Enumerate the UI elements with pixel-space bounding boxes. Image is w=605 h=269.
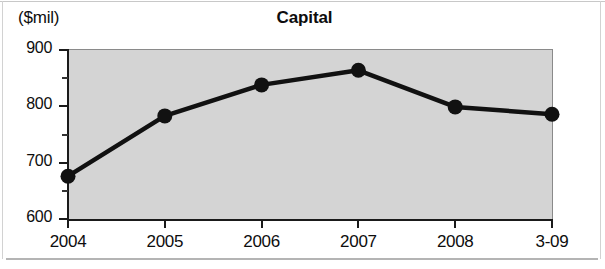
x-axis-line: [67, 219, 553, 221]
y-tick-major: [59, 49, 68, 51]
plot-area: [68, 50, 552, 219]
chart-title: Capital: [0, 8, 605, 28]
x-tick: [551, 221, 553, 228]
y-tick-label: 600: [4, 208, 52, 226]
x-tick-label: 2005: [120, 232, 210, 252]
y-tick-minor: [62, 190, 68, 192]
x-tick-label: 2007: [313, 232, 403, 252]
chart-title-text: Capital: [277, 8, 333, 27]
figure-border-left: [2, 1, 3, 259]
plot-border-right: [552, 49, 553, 220]
x-tick-label: 2008: [410, 232, 500, 252]
y-tick-minor: [62, 134, 68, 136]
y-tick-label: 800: [4, 95, 52, 113]
x-tick: [454, 221, 456, 228]
figure-border-top: [0, 1, 605, 2]
x-tick: [357, 221, 359, 228]
chart-figure: ($mil) Capital 600700800900 200420052006…: [0, 0, 605, 269]
figure-border-right: [600, 1, 601, 259]
x-tick: [67, 221, 69, 228]
y-tick-major: [59, 105, 68, 107]
y-tick-minor: [62, 77, 68, 79]
x-tick-label: 2006: [217, 232, 307, 252]
y-tick-label: 700: [4, 152, 52, 170]
plot-border-top: [68, 49, 553, 50]
y-tick-major: [59, 162, 68, 164]
x-tick-label: 2004: [23, 232, 113, 252]
x-tick-label: 3-09: [507, 232, 597, 252]
x-tick: [164, 221, 166, 228]
figure-border-bottom: [6, 258, 598, 260]
x-tick: [261, 221, 263, 228]
y-tick-major: [59, 218, 68, 220]
y-tick-label: 900: [4, 39, 52, 57]
